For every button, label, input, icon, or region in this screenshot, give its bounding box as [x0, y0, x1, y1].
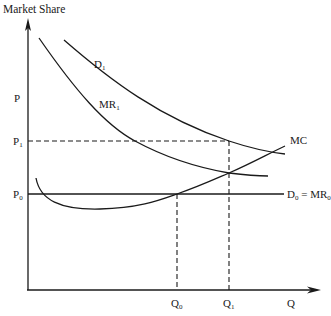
mr1-label: MR1	[99, 98, 120, 110]
d1-label: D1	[94, 58, 105, 70]
x-axis-label: Q	[287, 297, 295, 309]
market-share-diagram: Market Share P Q P1 P0 Q0 Q1 D1 MR1 MC D…	[0, 0, 331, 316]
mc-curve	[36, 146, 285, 209]
d0-mr0-label: D0 = MR0	[287, 188, 331, 200]
mc-label: MC	[290, 134, 307, 146]
p0-label: P0	[13, 188, 23, 200]
q0-label: Q0	[171, 297, 182, 309]
p1-label: P1	[13, 135, 23, 147]
diagram-canvas	[0, 0, 331, 316]
diagram-title: Market Share	[3, 3, 65, 15]
y-axis-label: P	[14, 92, 20, 104]
q1-label: Q1	[223, 297, 234, 309]
